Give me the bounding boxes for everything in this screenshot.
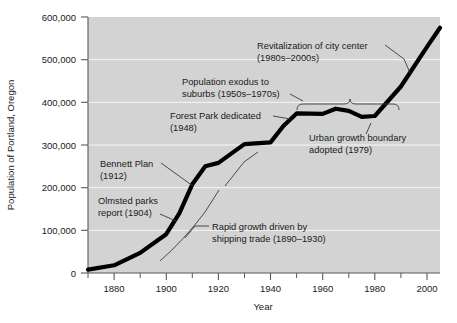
annotation-olmsted-line1: Olmsted parks	[98, 196, 158, 206]
x-tick-label-1900: 1900	[156, 283, 177, 294]
annotation-urban-growth-line1: Urban growth boundary	[309, 133, 407, 143]
annotation-bennett-plan-line2: (1912)	[100, 171, 127, 181]
annotation-forest-park-line2: (1948)	[170, 123, 197, 133]
x-tick-label-2000: 2000	[416, 283, 437, 294]
annotation-revitalization-line2: (1980s–2000s)	[257, 53, 319, 63]
y-tick-label-600000: 600,000	[42, 12, 76, 23]
annotation-bennett-plan-line1: Bennett Plan	[100, 159, 153, 169]
x-tick-label-1940: 1940	[260, 283, 281, 294]
y-tick-label-0: 0	[71, 268, 76, 279]
annotation-olmsted-line2: report (1904)	[98, 208, 152, 218]
y-tick-label-500000: 500,000	[42, 54, 76, 65]
x-tick-label-1880: 1880	[104, 283, 125, 294]
annotation-rapid-growth-line1: Rapid growth driven by	[212, 222, 307, 232]
annotation-population-exodus-line2: suburbs (1950s–1970s)	[182, 89, 280, 99]
x-tick-label-1920: 1920	[208, 283, 229, 294]
x-tick-label-1960: 1960	[312, 283, 333, 294]
x-axis-title: Year	[253, 301, 272, 312]
annotation-forest-park-line1: Forest Park dedicated	[170, 111, 261, 121]
population-chart: 600,000 500,000 400,000 300,000 200,000 …	[0, 0, 457, 323]
y-tick-label-200000: 200,000	[42, 182, 76, 193]
chart-svg: 600,000 500,000 400,000 300,000 200,000 …	[0, 0, 457, 323]
annotation-rapid-growth-line2: shipping trade (1890–1930)	[212, 234, 326, 244]
y-axis-title: Population of Portland, Oregon	[5, 80, 16, 210]
annotation-population-exodus-line1: Population exodus to	[182, 77, 269, 87]
y-tick-label-400000: 400,000	[42, 97, 76, 108]
y-tick-label-100000: 100,000	[42, 225, 76, 236]
x-tick-label-1980: 1980	[364, 283, 385, 294]
annotation-revitalization-line1: Revitalization of city center	[257, 41, 368, 51]
y-tick-label-300000: 300,000	[42, 140, 76, 151]
annotation-urban-growth-line2: adopted (1979)	[309, 145, 372, 155]
